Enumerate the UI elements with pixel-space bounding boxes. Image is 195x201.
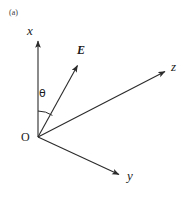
vector-diagram-figure: (a) x z y O E θ <box>0 0 195 201</box>
z-axis-line <box>38 72 165 138</box>
z-axis-label: z <box>171 60 176 73</box>
theta-angle-label: θ <box>39 88 46 99</box>
origin-label: O <box>21 131 30 143</box>
y-axis-label: y <box>127 169 133 182</box>
x-axis-label: x <box>27 24 33 37</box>
y-axis-line <box>38 137 119 175</box>
panel-label: (a) <box>9 9 18 17</box>
e-field-vector-label: E <box>77 44 85 56</box>
